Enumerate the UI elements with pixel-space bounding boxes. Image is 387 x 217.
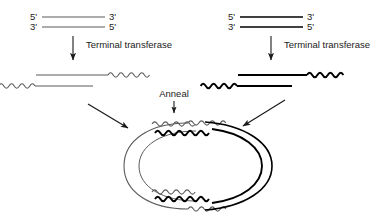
left-tailed-product	[0, 73, 150, 88]
left-duplex-bottom-left-prime: 3'	[30, 21, 37, 32]
right-duplex-bottom-left-prime: 3'	[228, 21, 235, 32]
homopolymer-tailing-diagram: 5' 3' 3' 5' Terminal transferase 5' 3' 3…	[0, 0, 387, 217]
right-duplex	[240, 17, 303, 27]
circle-thin-top-tail-pair	[152, 122, 195, 126]
right-product-bottom-tail	[201, 84, 237, 89]
circle-thick-arc	[212, 129, 262, 203]
circle-thin-bottom-tail-pair	[152, 190, 195, 194]
diagram-canvas: 5' 3' 3' 5' Terminal transferase 5' 3' 3…	[0, 0, 387, 217]
circle-thick-top-tail	[155, 131, 209, 136]
annealed-circle-product	[124, 121, 272, 211]
anneal-label: Anneal	[159, 88, 189, 99]
left-converge-arrow	[88, 104, 128, 128]
left-reaction-label: Terminal transferase	[86, 39, 172, 50]
right-product-top-tail	[307, 73, 343, 78]
left-duplex-bottom-right-prime: 5'	[109, 21, 116, 32]
circle-thick-bottom-tail	[155, 197, 209, 202]
left-duplex	[42, 17, 105, 27]
right-tailed-product	[201, 73, 344, 89]
right-duplex-bottom-right-prime: 5'	[307, 21, 314, 32]
right-reaction-label: Terminal transferase	[284, 39, 370, 50]
right-converge-arrow	[243, 100, 285, 126]
left-product-top-tail	[108, 73, 150, 77]
left-product-bottom-tail	[0, 84, 35, 88]
